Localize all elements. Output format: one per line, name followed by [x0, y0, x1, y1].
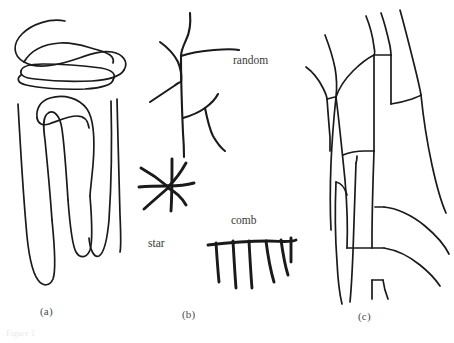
vein-center-cell-left: [336, 97, 347, 248]
star-ray-horizontal-left: [139, 186, 168, 187]
vein-right-lobe-top: [384, 248, 440, 286]
star-ray-upper-left: [141, 168, 167, 186]
star-ray-lower-left: [144, 188, 168, 209]
panel-label-a: (a): [40, 305, 53, 317]
vein-left-outer: [325, 35, 337, 97]
vein-right-outer-lower: [421, 95, 446, 213]
label-comb: comb: [231, 214, 257, 226]
vein-tall-up-right: [381, 13, 391, 55]
random-branch-upper-left: [181, 13, 190, 56]
panel-c-vein-network: [306, 10, 449, 304]
random-branch-right-descend: [205, 108, 225, 151]
random-branch-mid-right: [183, 94, 218, 118]
random-trunk-vertical: [181, 56, 184, 157]
comb-tooth-2: [233, 241, 236, 288]
vein-crossbar-151: [343, 151, 374, 155]
hairpin-far-right-line: [117, 99, 121, 252]
panel-b-random-network: [150, 13, 239, 157]
vein-left-lower-curve: [335, 182, 342, 304]
panel-b-comb-motif: [208, 238, 296, 288]
random-branch-left-arc: [160, 42, 181, 82]
vein-right-lobe-bottom: [384, 207, 449, 254]
comb-tooth-4: [266, 241, 274, 282]
vein-right-outer: [400, 10, 421, 95]
vein-inner-vertical: [372, 151, 374, 248]
serpentine-outer-curve: [15, 20, 126, 70]
panel-b-star-motif: [139, 159, 194, 211]
vein-left-descender: [327, 99, 330, 151]
panel-a-linework: [15, 20, 126, 285]
panel-label-b: (b): [182, 308, 195, 320]
comb-tooth-1: [216, 243, 219, 282]
vein-center-left-main: [336, 55, 374, 97]
hairpin-first-return: [44, 112, 68, 220]
figure-container: random star comb (a) (b) (c) Figure 1: [0, 0, 454, 343]
comb-tooth-5: [281, 240, 288, 275]
label-star: star: [148, 237, 165, 249]
label-random: random: [233, 54, 268, 66]
vein-bottom-trailing-right: [383, 280, 388, 299]
vein-lower-diagonal: [350, 163, 356, 302]
vein-mid-crossbar-right: [391, 95, 421, 104]
vein-crosstie-left: [327, 97, 336, 99]
caption-ghost-text: Figure 1: [6, 329, 35, 338]
figure-linework: [0, 0, 454, 343]
vein-left-stub: [306, 67, 327, 99]
vein-tall-up-left: [366, 16, 375, 55]
vein-small-tick-upper: [356, 156, 357, 163]
comb-tooth-3: [249, 241, 252, 288]
random-branch-left-lower: [150, 82, 181, 102]
random-branch-upper-right: [181, 49, 239, 56]
hairpin-second-fold: [68, 196, 92, 257]
serpentine-lower-loop-top: [21, 70, 124, 81]
panel-label-c: (c): [358, 310, 371, 322]
